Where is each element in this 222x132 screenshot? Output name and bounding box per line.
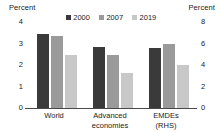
bar-group-advanced-economies [87, 22, 139, 108]
plot-area [25, 22, 197, 108]
right-axis-ticks: 8 6 4 2 0 [199, 22, 215, 108]
legend-item-2000: 2000 [66, 14, 90, 22]
bar-2007 [163, 44, 175, 109]
chart-legend: 2000 2007 2019 [0, 14, 222, 22]
bar-2000 [37, 34, 49, 108]
bar-2007 [51, 36, 63, 108]
bar-2019 [177, 65, 189, 108]
bar-group-emdes [143, 22, 195, 108]
chart-container: Percent Percent 2000 2007 2019 4 3 2 1 0… [0, 0, 222, 132]
right-tick-0: 0 [201, 104, 205, 112]
bar-group-world [31, 22, 83, 108]
left-tick-3: 3 [19, 40, 23, 48]
left-axis-caption: Percent [9, 3, 36, 12]
left-tick-0: 0 [19, 104, 23, 112]
right-tick-2: 2 [201, 83, 205, 91]
category-label-emdes: EMDEs (RHS) [137, 111, 195, 130]
bar-2000 [149, 48, 161, 108]
bar-2000 [93, 47, 105, 108]
left-tick-4: 4 [19, 18, 23, 26]
bar-2019 [65, 55, 77, 108]
legend-swatch-2007 [99, 15, 104, 20]
legend-label-2000: 2000 [73, 14, 90, 22]
left-tick-1: 1 [19, 83, 23, 91]
left-axis-ticks: 4 3 2 1 0 [7, 22, 23, 108]
right-tick-6: 6 [201, 40, 205, 48]
category-label-advanced-economies: Advanced economies [81, 111, 139, 130]
axis-baseline [25, 108, 197, 109]
right-tick-4: 4 [201, 61, 205, 69]
legend-swatch-2000 [66, 15, 71, 20]
category-label-world: World [25, 111, 83, 121]
right-axis-caption: Percent [188, 3, 215, 12]
legend-swatch-2019 [132, 15, 137, 20]
legend-item-2007: 2007 [99, 14, 123, 22]
legend-item-2019: 2019 [132, 14, 156, 22]
legend-label-2007: 2007 [106, 14, 123, 22]
bar-2019 [121, 73, 133, 108]
bar-2007 [107, 55, 119, 108]
right-tick-8: 8 [201, 18, 205, 26]
left-tick-2: 2 [19, 61, 23, 69]
legend-label-2019: 2019 [140, 14, 157, 22]
